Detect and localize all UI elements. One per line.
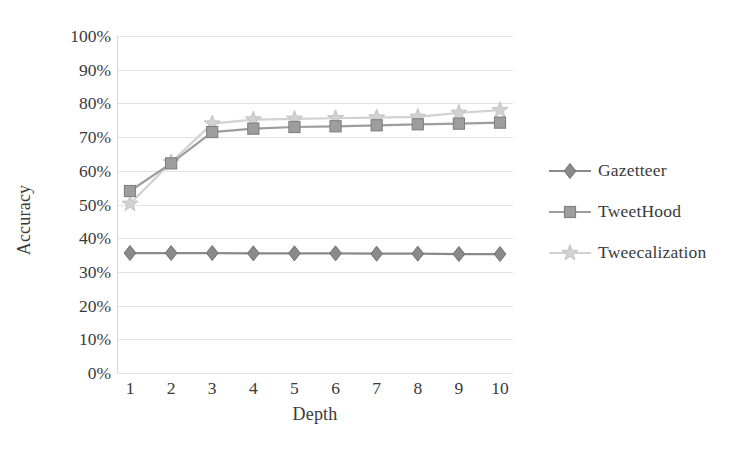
x-axis-tick-label: 1 bbox=[110, 378, 150, 399]
y-axis-tick-label: 70% bbox=[57, 127, 111, 148]
square-marker-icon bbox=[548, 201, 592, 223]
x-axis-tick-label: 7 bbox=[357, 378, 397, 399]
data-point-square bbox=[453, 118, 464, 129]
data-point-diamond bbox=[494, 247, 506, 262]
x-axis-tick-label: 2 bbox=[151, 378, 191, 399]
data-point-square bbox=[248, 123, 259, 134]
y-axis-tick-label: 40% bbox=[57, 228, 111, 249]
data-point-square bbox=[564, 206, 575, 217]
data-point-diamond bbox=[564, 163, 576, 178]
data-point-diamond bbox=[289, 246, 301, 261]
series-plot bbox=[117, 36, 513, 373]
data-point-square bbox=[124, 185, 135, 196]
data-point-diamond bbox=[330, 246, 342, 261]
data-point-square bbox=[412, 119, 423, 130]
series-line bbox=[130, 253, 500, 254]
data-point-square bbox=[207, 126, 218, 137]
x-axis-tick-label: 6 bbox=[316, 378, 356, 399]
chart-legend: GazetteerTweetHoodTweecalization bbox=[548, 150, 746, 273]
legend-label: Gazetteer bbox=[592, 160, 667, 181]
data-point-star bbox=[451, 104, 467, 119]
data-point-star bbox=[562, 244, 578, 259]
x-axis-title: Depth bbox=[170, 404, 460, 425]
data-point-diamond bbox=[165, 246, 177, 261]
x-axis-tick-label: 3 bbox=[192, 378, 232, 399]
y-axis-title: Accuracy bbox=[14, 150, 35, 290]
y-axis-tick-label: 0% bbox=[57, 363, 111, 384]
gridline bbox=[117, 373, 513, 374]
x-axis-tick-label: 9 bbox=[439, 378, 479, 399]
legend-item-gazetteer[interactable]: Gazetteer bbox=[548, 150, 746, 191]
data-point-diamond bbox=[371, 246, 383, 261]
data-point-diamond bbox=[453, 247, 465, 262]
legend-item-tweethood[interactable]: TweetHood bbox=[548, 191, 746, 232]
y-axis-tick-label: 100% bbox=[57, 26, 111, 47]
data-point-diamond bbox=[247, 246, 259, 261]
data-point-star bbox=[492, 102, 508, 117]
x-axis-tick-label: 5 bbox=[274, 378, 314, 399]
data-point-square bbox=[166, 158, 177, 169]
data-point-square bbox=[330, 121, 341, 132]
data-point-square bbox=[289, 121, 300, 132]
x-axis-tick-label: 8 bbox=[398, 378, 438, 399]
y-axis-tick-label: 80% bbox=[57, 93, 111, 114]
y-axis-tick-label: 60% bbox=[57, 160, 111, 181]
series-gazetteer bbox=[124, 246, 506, 262]
plot-area bbox=[117, 36, 513, 373]
y-axis-tick-label: 30% bbox=[57, 261, 111, 282]
diamond-marker-icon bbox=[548, 160, 592, 182]
y-axis-tick-label: 90% bbox=[57, 59, 111, 80]
data-point-square bbox=[494, 117, 505, 128]
data-point-diamond bbox=[412, 246, 424, 261]
series-tweethood bbox=[124, 117, 505, 197]
data-point-diamond bbox=[124, 246, 136, 261]
legend-label: Tweecalization bbox=[592, 242, 706, 263]
data-point-square bbox=[371, 120, 382, 131]
star-marker-icon bbox=[548, 242, 592, 264]
chart-figure: Accuracy 0%10%20%30%40%50%60%70%80%90%10… bbox=[0, 0, 749, 457]
series-line bbox=[130, 123, 500, 191]
data-point-diamond bbox=[206, 246, 218, 261]
legend-item-tweecalization[interactable]: Tweecalization bbox=[548, 232, 746, 273]
y-axis-tick-label: 50% bbox=[57, 194, 111, 215]
x-axis-tick-label: 10 bbox=[480, 378, 520, 399]
y-axis-tick-label: 20% bbox=[57, 295, 111, 316]
legend-label: TweetHood bbox=[592, 201, 681, 222]
y-axis-tick-label: 10% bbox=[57, 329, 111, 350]
x-axis-tick-label: 4 bbox=[233, 378, 273, 399]
y-axis-tick-labels: 0%10%20%30%40%50%60%70%80%90%100% bbox=[55, 36, 111, 373]
x-axis-tick-labels: 12345678910 bbox=[117, 378, 513, 404]
